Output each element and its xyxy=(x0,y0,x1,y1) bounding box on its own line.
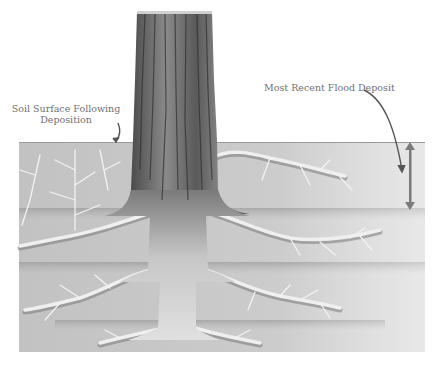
soil-surface-label: Soil Surface Following Deposition xyxy=(6,103,126,125)
tree-root-diagram xyxy=(0,0,438,367)
soil-surface-label-line1: Soil Surface Following xyxy=(6,103,126,114)
flood-deposit-label: Most Recent Flood Deposit xyxy=(264,82,395,93)
soil-surface-label-line2: Deposition xyxy=(6,114,126,125)
curved-arrow-icon xyxy=(113,123,120,142)
soil-block xyxy=(19,142,425,352)
